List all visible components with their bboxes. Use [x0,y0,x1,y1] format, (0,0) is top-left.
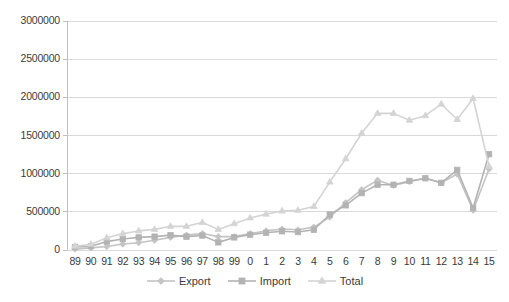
data-point-export [215,234,221,240]
y-axis-label: 2500000 [21,52,60,64]
x-axis-label: 15 [479,255,499,267]
data-point-total [199,219,206,225]
legend-item-export: Export [146,275,211,287]
data-point-import [359,190,364,195]
data-point-import [136,235,141,240]
series-line-total [75,98,489,246]
data-point-import [279,229,284,234]
data-point-import [391,182,396,187]
data-point-import [184,234,189,239]
legend-marker-triangle-icon [307,275,337,287]
legend-item-total: Total [307,275,363,287]
data-point-import [247,232,252,237]
data-point-import [152,234,157,239]
data-point-total [390,110,397,116]
data-point-import [295,229,300,234]
legend-item-import: Import [227,275,291,287]
y-axis-label: 1000000 [21,167,60,179]
data-point-import [311,227,316,232]
legend-label: Import [260,275,291,287]
data-point-import [232,235,237,240]
data-point-import [423,176,428,181]
data-point-import [216,240,221,245]
y-axis-label: 1500000 [21,129,60,141]
data-point-import [375,182,380,187]
y-axis-label: 0 [54,243,60,255]
data-point-import [327,212,332,217]
data-point-import [454,167,459,172]
series-import [72,152,491,250]
chart-legend: ExportImportTotal [0,275,509,287]
data-point-import [470,205,475,210]
data-point-total [374,110,381,116]
data-point-total [438,101,445,107]
data-point-export [136,240,142,246]
y-axis-label: 2000000 [21,90,60,102]
legend-marker-diamond-icon [146,275,176,287]
data-point-total [167,223,174,229]
data-point-import [120,236,125,241]
legend-marker-square-icon [227,275,257,287]
data-point-import [343,203,348,208]
legend-label: Total [340,275,363,287]
y-axis-label: 3000000 [21,14,60,26]
series-total [72,95,493,248]
data-point-import [200,233,205,238]
data-point-import [439,180,444,185]
y-axis-label: 500000 [26,205,60,217]
data-point-import [407,178,412,183]
data-point-import [263,230,268,235]
line-chart: 0500000100000015000002000000250000030000… [0,0,509,302]
legend-label: Export [179,275,211,287]
data-point-import [168,232,173,237]
